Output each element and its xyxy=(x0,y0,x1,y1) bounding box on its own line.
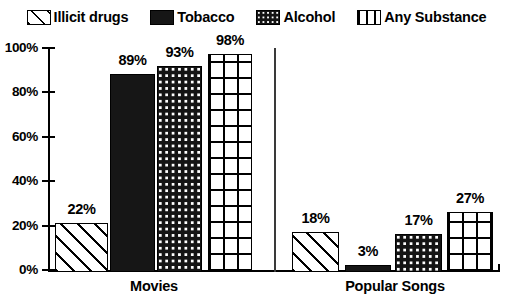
bar-movies-tobacco xyxy=(110,74,155,272)
group-label-movies: Movies xyxy=(88,278,220,295)
legend-item-any-substance: Any Substance xyxy=(357,10,486,25)
bar-value-songs-any-substance: 27% xyxy=(445,191,495,206)
group-label-popular-songs: Popular Songs xyxy=(325,278,465,295)
plot-area: 100% 80% 60% 40% 20% 0% 22% 89% 93% 98% … xyxy=(0,34,513,295)
bar-chart: Illicit drugs Tobacco Alcohol Any Substa… xyxy=(0,0,513,295)
y-tick-mark-100 xyxy=(42,47,55,49)
bar-value-movies-alcohol: 93% xyxy=(155,45,204,60)
y-tick-label-100: 100% xyxy=(5,41,38,54)
bar-movies-alcohol xyxy=(157,66,202,273)
y-tick-mark-60 xyxy=(42,136,55,138)
chart-legend: Illicit drugs Tobacco Alcohol Any Substa… xyxy=(0,4,513,30)
y-tick-label-60: 60% xyxy=(12,130,38,143)
bar-songs-any-substance xyxy=(447,212,493,272)
legend-label-any-substance: Any Substance xyxy=(384,10,486,25)
x-axis-end-tick xyxy=(498,264,500,272)
legend-item-illicit-drugs: Illicit drugs xyxy=(27,10,129,25)
bar-value-songs-alcohol: 17% xyxy=(394,213,443,228)
bar-songs-alcohol xyxy=(395,234,442,272)
legend-item-tobacco: Tobacco xyxy=(150,10,234,25)
bar-value-movies-any-substance: 98% xyxy=(205,33,255,48)
bar-value-songs-tobacco: 3% xyxy=(344,244,392,259)
y-tick-mark-40 xyxy=(42,180,55,182)
legend-label-illicit-drugs: Illicit drugs xyxy=(54,10,129,25)
legend-swatch-grid-icon xyxy=(357,10,381,25)
group-divider-line xyxy=(274,48,276,272)
y-tick-label-20: 20% xyxy=(12,219,38,232)
y-tick-label-40: 40% xyxy=(12,174,38,187)
legend-item-alcohol: Alcohol xyxy=(256,10,335,25)
bar-value-movies-illicit-drugs: 22% xyxy=(55,202,108,217)
legend-label-tobacco: Tobacco xyxy=(177,10,234,25)
y-tick-mark-20 xyxy=(42,225,55,227)
y-axis-line xyxy=(48,48,50,272)
legend-swatch-diagonal-icon xyxy=(27,10,51,25)
bar-value-movies-tobacco: 89% xyxy=(108,53,157,68)
y-tick-mark-0 xyxy=(42,269,55,271)
bar-value-songs-illicit-drugs: 18% xyxy=(291,211,340,226)
bar-songs-tobacco xyxy=(345,265,391,272)
bar-movies-any-substance xyxy=(208,54,252,272)
bar-songs-illicit-drugs xyxy=(292,232,339,272)
y-tick-label-80: 80% xyxy=(12,85,38,98)
y-tick-mark-80 xyxy=(42,91,55,93)
legend-swatch-solid-icon xyxy=(150,10,174,25)
legend-swatch-dots-icon xyxy=(256,10,280,25)
legend-label-alcohol: Alcohol xyxy=(283,10,335,25)
bar-movies-illicit-drugs xyxy=(55,223,108,272)
y-tick-label-0: 0% xyxy=(19,263,38,276)
